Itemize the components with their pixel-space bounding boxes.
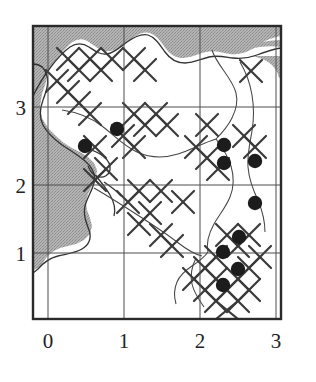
data-point: [216, 278, 230, 292]
x-tick-label-1: 1: [119, 329, 130, 353]
data-point: [216, 245, 230, 259]
data-point: [248, 154, 262, 168]
x-tick-label-0: 0: [43, 329, 54, 353]
data-point: [231, 262, 245, 276]
y-tick-label-1: 1: [16, 242, 27, 266]
map-canvas: 0 1 2 3 3 2 1: [0, 0, 316, 382]
x-tick-label-3: 3: [271, 329, 282, 353]
plot-interior: [33, 26, 281, 319]
data-point: [217, 138, 231, 152]
data-point: [78, 139, 92, 153]
x-axis-labels: 0 1 2 3: [43, 329, 282, 353]
x-tick-label-2: 2: [195, 329, 206, 353]
y-tick-label-3: 3: [16, 96, 27, 120]
y-axis-labels: 3 2 1: [16, 96, 27, 266]
data-point: [110, 122, 124, 136]
y-tick-label-2: 2: [16, 174, 27, 198]
data-point: [248, 196, 262, 210]
data-point: [217, 156, 231, 170]
distribution-map-figure: 0 1 2 3 3 2 1: [0, 0, 316, 382]
data-point: [232, 230, 246, 244]
